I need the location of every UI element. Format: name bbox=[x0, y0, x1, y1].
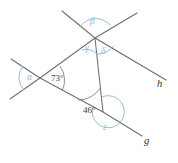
line-label-g: g bbox=[144, 136, 149, 147]
angle-arc-alpha bbox=[19, 66, 24, 90]
line-h-stroke bbox=[62, 11, 166, 80]
angle-arc-beta bbox=[80, 19, 110, 27]
angle-label-73-degrees: 73° bbox=[51, 74, 64, 83]
line-g-stroke bbox=[11, 59, 142, 136]
angle-label-delta: δ bbox=[101, 47, 105, 57]
angle-arc-epsilon bbox=[92, 96, 124, 128]
angle-label-gamma: γ bbox=[85, 44, 89, 54]
angle-label-46-degrees: 46° bbox=[83, 106, 96, 115]
angle-label-epsilon: ε bbox=[103, 123, 107, 133]
geometry-diagram: β γ δ α ε 73° 46° h g bbox=[0, 0, 178, 163]
line-label-h: h bbox=[157, 79, 162, 90]
angle-label-alpha: α bbox=[27, 73, 32, 83]
line-upper-right-ray-stroke bbox=[10, 13, 137, 99]
angle-label-beta: β bbox=[90, 17, 95, 27]
angle-arc-46 bbox=[78, 87, 101, 100]
